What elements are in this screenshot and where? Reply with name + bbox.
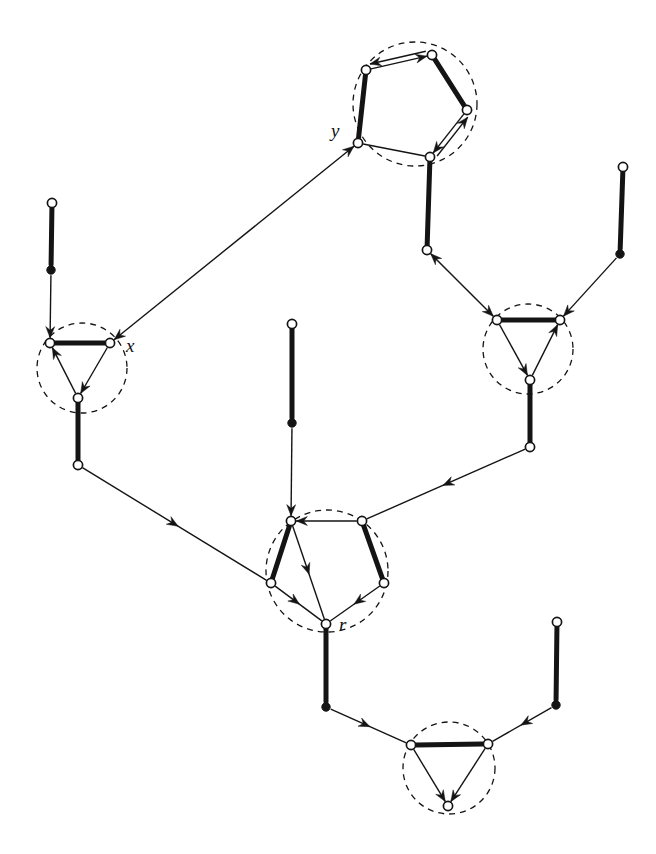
node-n-rp-left[interactable] (266, 578, 275, 587)
node-n-top-pent-upperleft[interactable] (361, 65, 370, 74)
edge-e-bt-right-to-bottom (451, 748, 485, 801)
node-n-x-left[interactable] (45, 338, 54, 347)
graph-figure: yxr (0, 0, 656, 854)
edge-e-x-bottom-to-left (52, 348, 75, 394)
node-n-bt-right[interactable] (483, 739, 492, 748)
edge-e-left-stem-thick (51, 208, 52, 265)
node-n-rt-stem-end[interactable] (525, 442, 534, 451)
edge-e-rtstem-to-rp-topright (367, 449, 525, 519)
node-n-r[interactable] (321, 619, 330, 628)
cluster-circle-cluster-r-pentagon (266, 510, 388, 632)
node-n-bt-left[interactable] (406, 740, 415, 749)
node-n-mid-link-left[interactable] (422, 245, 431, 254)
nodes-layer (45, 50, 627, 810)
edge-e-x-right-to-bottom (81, 347, 108, 393)
label-y: y (329, 120, 340, 141)
node-n-rt-bottom[interactable] (525, 375, 534, 384)
edge-e-rdot-to-bt-left (331, 709, 407, 743)
node-n-bt-bottom[interactable] (443, 801, 452, 810)
edges-layer (46, 51, 623, 801)
edge-e-center-stem-arrow (287, 428, 296, 516)
edge-e-rt-left-to-bottom (500, 325, 528, 376)
edge-e-toppent-top-right (435, 59, 464, 105)
edge-e-midlink-rt (431, 254, 494, 317)
node-n-top-pent-right[interactable] (462, 105, 471, 114)
cluster-circles-layer (37, 42, 573, 814)
node-n-rt-left[interactable] (492, 315, 501, 324)
cluster-circle-cluster-bottom-triangle (403, 722, 495, 814)
label-r: r (339, 614, 347, 635)
edge-e-y-to-x (114, 146, 354, 339)
labels-layer: yxr (125, 120, 347, 635)
edge-e-xstem-to-rp-left (82, 468, 266, 581)
node-n-rp-topleft[interactable] (286, 516, 295, 525)
edge-e-bottom-right-stem-arrow (493, 708, 552, 742)
node-n-right-stem-dot[interactable] (616, 250, 624, 258)
edge-e-toppent-y-upperleft (359, 75, 366, 138)
label-x: x (125, 335, 135, 356)
edge-e-right-stem-arrow (563, 258, 616, 316)
edge-e-left-stem-arrow (46, 275, 55, 338)
node-n-r-stem-dot[interactable] (322, 703, 330, 711)
graph-canvas: yxr (0, 0, 656, 854)
edge-e-rp-right-r (330, 586, 380, 621)
node-n-x[interactable] (105, 338, 114, 347)
node-n-rt-right[interactable] (555, 315, 564, 324)
cluster-circle-cluster-top-pentagon (353, 42, 477, 166)
edge-e-rp-topright-right (364, 526, 383, 578)
node-n-y[interactable] (353, 138, 362, 147)
node-n-bottom-right-stem-top[interactable] (552, 617, 561, 626)
edge-e-rt-bottom-to-right (532, 325, 557, 376)
edge-e-right-stem-thick (620, 172, 623, 249)
edge-e-rp-topleft-r (293, 526, 325, 619)
node-n-top-pent-lowerright[interactable] (425, 152, 434, 161)
node-n-left-stem-dot[interactable] (47, 266, 55, 274)
node-n-center-stem-top[interactable] (287, 319, 296, 328)
edge-e-rp-topright-topleft (296, 517, 357, 526)
node-n-x-stem-end[interactable] (73, 460, 82, 469)
node-n-bottom-right-stem-dot[interactable] (552, 701, 560, 709)
node-n-top-pent-top[interactable] (427, 50, 436, 59)
node-n-center-stem-dot[interactable] (288, 419, 296, 427)
node-n-left-stem-top[interactable] (47, 198, 56, 207)
edge-e-bt-top (416, 744, 483, 745)
edge-e-bt-left-to-bottom (414, 749, 446, 801)
edge-e-rp-topleft-left (273, 526, 290, 578)
node-n-rp-topright[interactable] (357, 516, 366, 525)
edge-e-bottom-right-stem-thick (556, 627, 557, 700)
edge-e-toppent-lowerright-midlink (427, 162, 430, 245)
node-n-rp-right[interactable] (379, 578, 388, 587)
node-n-x-bottom[interactable] (73, 393, 82, 402)
edge-e-toppent-lowerright-right (437, 117, 468, 156)
node-n-right-stem-top[interactable] (618, 162, 627, 171)
edge-e-toppent-lowerright-y (363, 144, 425, 156)
